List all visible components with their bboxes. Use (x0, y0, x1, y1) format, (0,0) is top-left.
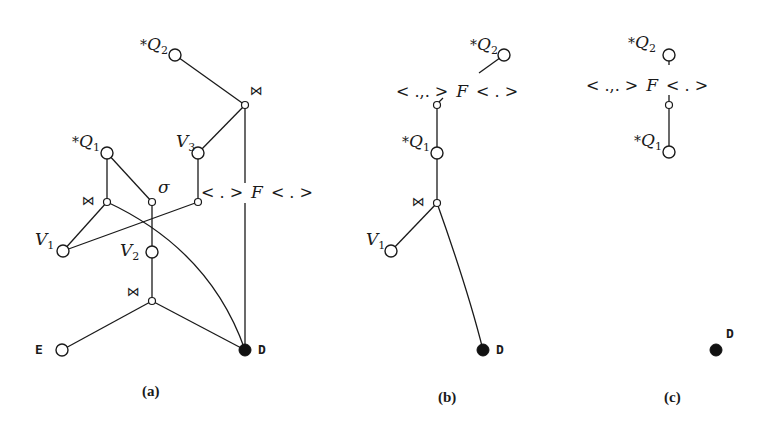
edge-join-top-v3 (198, 105, 245, 153)
caption-b: (b) (438, 389, 456, 406)
node-join-mid (104, 199, 111, 206)
node-sigma (149, 199, 156, 206)
label-f-operator: < .,. >F< . > (586, 75, 708, 95)
label-d: D (726, 326, 734, 341)
edge-join-mid-d-curve (107, 202, 245, 350)
label-d: D (496, 342, 504, 357)
edge-join-v1 (391, 203, 437, 251)
node-q1 (431, 147, 443, 159)
edge-join-d (437, 203, 483, 350)
node-d (239, 344, 251, 356)
label-v1: V1 (35, 229, 54, 252)
join-bottom-symbol: ⋈ (127, 284, 140, 299)
label-v3: V3 (176, 131, 195, 154)
join-top-symbol: ⋈ (250, 83, 263, 98)
label-d: D (258, 342, 266, 357)
label-q2: *Q2 (470, 34, 498, 57)
node-d (710, 344, 722, 356)
edge-join-bottom-d (152, 301, 245, 350)
panel-c: *Q2 < .,. >F< . > *Q1 D (c) (586, 32, 734, 406)
node-v1 (385, 245, 397, 257)
node-q1 (663, 146, 675, 158)
node-q2 (169, 49, 181, 61)
label-v2: V2 (120, 240, 139, 263)
edge-join-bottom-e (62, 301, 152, 350)
edge-q2-join-top (175, 55, 245, 105)
label-q1: *Q1 (634, 130, 662, 153)
label-q2: *Q2 (140, 34, 168, 57)
label-q2: *Q2 (628, 32, 656, 55)
node-v2 (146, 246, 158, 258)
edge-q1-sigma (107, 153, 152, 202)
node-q1 (101, 147, 113, 159)
join-mid-symbol: ⋈ (82, 193, 95, 208)
label-f-operator: < .,. >F< . > (396, 81, 518, 101)
sigma-symbol: σ (158, 177, 170, 197)
node-join-bottom (149, 298, 156, 305)
panel-a: *Q2 ⋈ V3 *Q1 ⋈ σ < . >F< . > V1 V2 ⋈ E D… (35, 34, 313, 400)
label-f-operator: < . >F< . > (201, 182, 313, 202)
join-symbol: ⋈ (412, 194, 425, 209)
node-d (477, 344, 489, 356)
node-join (434, 200, 441, 207)
caption-c: (c) (664, 389, 681, 406)
node-v1 (57, 245, 69, 257)
node-f (666, 102, 673, 109)
node-q2 (498, 49, 510, 61)
label-q1: *Q1 (402, 131, 430, 154)
node-e (56, 344, 68, 356)
label-v1: V1 (366, 229, 385, 252)
node-f (434, 102, 441, 109)
label-e: E (35, 342, 43, 357)
node-join-top (242, 102, 249, 109)
label-q1: *Q1 (72, 131, 100, 154)
node-q2 (663, 49, 675, 61)
caption-a: (a) (142, 383, 160, 400)
query-graph-figure: *Q2 ⋈ V3 *Q1 ⋈ σ < . >F< . > V1 V2 ⋈ E D… (0, 0, 763, 431)
panel-b: *Q2 < .,. >F< . > *Q1 ⋈ V1 D (b) (366, 34, 518, 406)
